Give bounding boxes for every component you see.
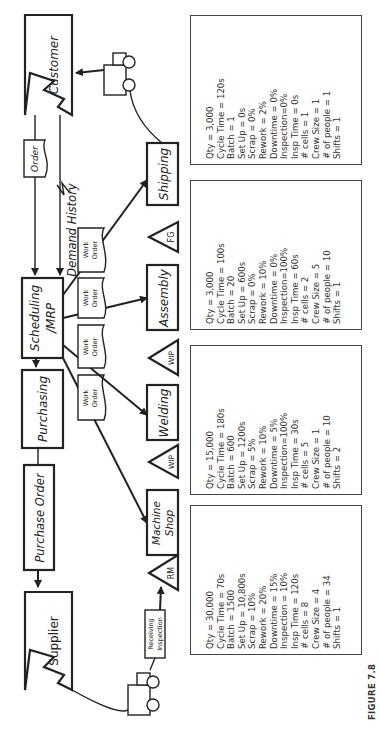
svg-text:Assembly: Assembly xyxy=(157,268,171,328)
svg-text:Order: Order xyxy=(91,240,99,259)
shipping-data-box: Qty = 3,000Cycle Time = 120sBatch = 1Set… xyxy=(190,15,362,165)
inventory-fg-triangle: FG xyxy=(149,222,178,252)
svg-text:Receiving: Receiving xyxy=(147,618,155,650)
shipping-box: Shipping xyxy=(147,143,178,205)
inventory-wip-triangle-2: WIP xyxy=(149,340,178,375)
truck-to-customer-arrow xyxy=(76,70,104,73)
machine-shop-box: Machine Shop xyxy=(147,490,178,555)
svg-text:Order: Order xyxy=(91,337,99,356)
customer-truck-icon xyxy=(104,53,135,95)
truck-to-receiving-line xyxy=(150,658,155,670)
scheduling-mrp-box: Scheduling /MRP xyxy=(22,278,63,358)
svg-text:Work: Work xyxy=(82,339,90,356)
supplier-label: Supplier xyxy=(47,616,61,666)
svg-text:/MRP: /MRP xyxy=(44,302,58,334)
inventory-rm-triangle: RM xyxy=(149,555,178,590)
svg-text:Welding: Welding xyxy=(157,388,171,437)
svg-text:Order: Order xyxy=(91,288,99,307)
welding-data-box: Qty = 15,000Cycle Time = 180sBatch = 600… xyxy=(190,345,362,495)
work-order-assembly: Work Order xyxy=(63,278,147,318)
svg-text:Work: Work xyxy=(82,242,90,259)
purchase-order-label: Purchase Order xyxy=(33,472,47,562)
shipping-to-truck-line xyxy=(130,91,162,143)
svg-text:WIP: WIP xyxy=(167,350,176,365)
svg-text:Shop: Shop xyxy=(163,509,175,536)
welding-box: Welding xyxy=(147,385,178,440)
supplier-to-truck-line xyxy=(72,690,128,711)
svg-text:RM: RM xyxy=(167,567,176,580)
svg-text:Order: Order xyxy=(30,145,40,172)
inventory-wip-triangle-1: WIP xyxy=(149,445,178,478)
customer-factory: Customer xyxy=(25,15,72,115)
svg-text:Work: Work xyxy=(82,390,90,407)
figure-label: FIGURE 7.8 xyxy=(367,664,377,720)
customer-label: Customer xyxy=(47,35,61,94)
svg-text:Machine: Machine xyxy=(150,501,162,545)
order-document: Order xyxy=(24,140,47,177)
svg-text:FG: FG xyxy=(167,232,176,243)
svg-text:Work: Work xyxy=(82,290,90,307)
receiving-inspection-box: Receiving Inspection xyxy=(145,610,165,658)
receiving-to-rm-arrow xyxy=(160,587,161,610)
svg-text:Inspection: Inspection xyxy=(156,617,164,651)
assembly-box: Assembly xyxy=(147,265,178,330)
machine-shop-data-box: Qty = 30,000Cycle Time = 70sBatch = 1500… xyxy=(190,505,362,655)
supplier-truck-icon xyxy=(128,673,159,715)
supplier-factory: Supplier xyxy=(25,592,72,690)
purchase-order-box: Purchase Order xyxy=(24,465,54,570)
purchasing-box: Purchasing xyxy=(22,370,63,448)
svg-text:Shipping: Shipping xyxy=(157,147,171,200)
value-stream-map: Supplier Customer Purchase Order Purchas… xyxy=(0,0,380,745)
work-order-machine-shop: Work Order xyxy=(63,358,147,523)
assembly-data-box: Qty = 3,000Cycle Time = 100sBatch = 20Se… xyxy=(190,180,362,330)
svg-text:Scheduling: Scheduling xyxy=(28,284,42,351)
demand-history-label: Demand History xyxy=(65,183,79,277)
svg-text:Order: Order xyxy=(91,388,99,407)
svg-text:WIP: WIP xyxy=(167,454,176,469)
purchasing-label: Purchasing xyxy=(36,376,50,443)
